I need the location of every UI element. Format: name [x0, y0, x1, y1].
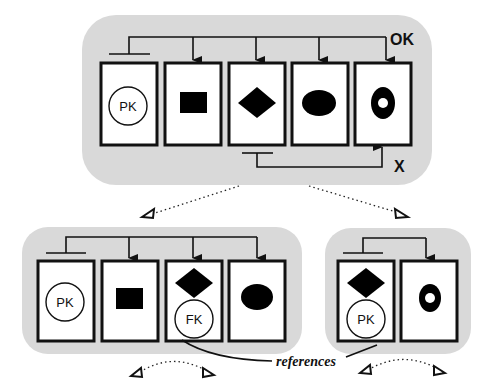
pk-key-label: PK [119, 99, 137, 114]
card-ring [355, 63, 411, 145]
card-rectangle [165, 63, 221, 145]
decomposition-arrows [142, 186, 408, 218]
bottom-right-further-arrows [360, 359, 445, 375]
ellipse-shape-icon [241, 284, 273, 310]
card-pk: PK [38, 261, 94, 341]
x-label: X [394, 158, 405, 175]
hollow-arrow-icon [131, 368, 142, 377]
card-rectangle [102, 261, 158, 341]
bottom-right-group: PK [325, 228, 471, 354]
rectangle-shape-icon [180, 92, 207, 113]
card-diamond-pk: PK [338, 261, 394, 341]
hollow-arrow-icon [360, 365, 371, 374]
top-group: OK X PK [82, 15, 432, 185]
hollow-arrow-icon [434, 366, 445, 375]
card-pk: PK [101, 63, 157, 145]
pk-key-label: PK [357, 312, 375, 327]
card-diamond-fk: FK [166, 261, 222, 341]
hollow-arrow-icon [142, 209, 154, 218]
card-ellipse [292, 63, 348, 145]
references-label: references [276, 354, 336, 369]
bottom-left-group: PK FK [22, 227, 302, 354]
bottom-left-further-arrows [131, 361, 214, 377]
card-diamond [229, 63, 285, 145]
ok-label: OK [390, 31, 414, 48]
card-ellipse [229, 261, 285, 341]
fk-key-label: FK [186, 312, 203, 327]
pk-key-label: PK [56, 295, 74, 310]
decomposition-diagram: OK X PK [0, 0, 494, 392]
hollow-arrow-icon [395, 209, 408, 218]
hollow-arrow-icon [203, 368, 214, 377]
rectangle-shape-icon [116, 288, 143, 309]
ellipse-shape-icon [302, 90, 336, 116]
card-ring [401, 261, 457, 341]
